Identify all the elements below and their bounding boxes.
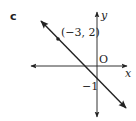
coordinate-diagram: c (−3, 2) y x O −1: [0, 0, 136, 121]
part-label: c: [10, 10, 17, 23]
origin-label: O: [99, 53, 108, 66]
x-axis-label: x: [125, 67, 132, 80]
point-marker: [56, 37, 60, 41]
y-axis-label: y: [100, 9, 108, 22]
y-intercept-label: −1: [82, 80, 98, 93]
point-label: (−3, 2): [61, 26, 100, 39]
